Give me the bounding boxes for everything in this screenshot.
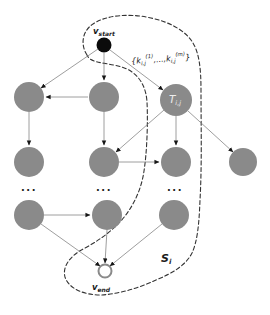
node-grid-r4c1 bbox=[14, 200, 44, 230]
key-set-close: } bbox=[185, 53, 191, 62]
vend-label-sub: end bbox=[97, 286, 110, 293]
node-grid-r2c2 bbox=[89, 82, 119, 112]
gray-nodes bbox=[14, 82, 257, 230]
edge-start-to-r2c1 bbox=[41, 49, 98, 88]
key-set-sub1: i,j bbox=[141, 60, 147, 67]
key-set-sub2: i,j bbox=[171, 58, 177, 65]
key-set-sup2: (m) bbox=[175, 51, 185, 58]
key-set-sup1: (1) bbox=[145, 53, 153, 60]
key-set-mid: ,...,k bbox=[153, 54, 171, 64]
region-label: Si bbox=[161, 252, 172, 266]
key-set-label: {ki,j(1),...,ki,j(m)} bbox=[131, 50, 191, 68]
edge-task-to-r3c4 bbox=[188, 111, 233, 152]
node-grid-r3c4 bbox=[229, 148, 257, 176]
node-grid-r4c2 bbox=[92, 200, 122, 230]
region-label-sub: i bbox=[169, 258, 172, 266]
edge-task-to-r3c2 bbox=[116, 110, 164, 152]
node-vstart bbox=[97, 38, 112, 53]
vstart-label: vstart bbox=[93, 26, 116, 37]
vstart-label-sub: start bbox=[99, 30, 116, 37]
task-label-sub: i,j bbox=[175, 99, 181, 107]
node-grid-r3c1 bbox=[14, 147, 44, 177]
edges bbox=[29, 49, 233, 266]
node-vend bbox=[99, 265, 112, 278]
ellipsis-col3: ... bbox=[167, 182, 183, 193]
node-grid-r4c3 bbox=[159, 200, 189, 230]
dag-figure: ... ... ... vstart {ki,j(1),...,ki,j(m)}… bbox=[0, 0, 270, 315]
region-label-base: S bbox=[161, 252, 169, 265]
node-grid-r2c1 bbox=[14, 82, 44, 112]
node-grid-r3c3 bbox=[161, 147, 191, 177]
edge-r4c3-to-end bbox=[110, 224, 162, 266]
node-grid-r3c2 bbox=[89, 147, 119, 177]
graph-canvas: ... ... ... vstart {ki,j(1),...,ki,j(m)}… bbox=[0, 0, 270, 315]
vend-label: vend bbox=[92, 282, 111, 293]
ellipsis-col1: ... bbox=[21, 182, 37, 193]
ellipsis-col2: ... bbox=[96, 182, 112, 193]
